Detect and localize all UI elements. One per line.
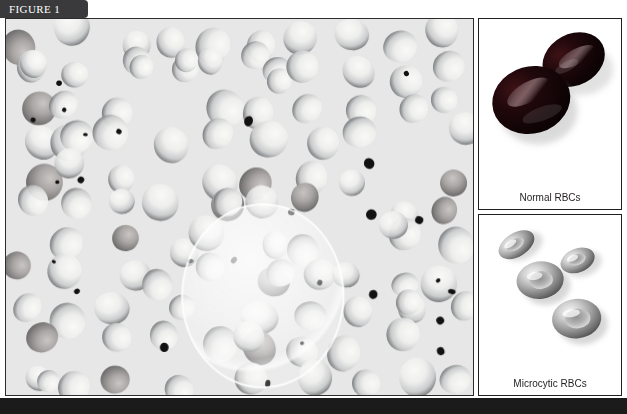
- blood-smear-panel: [5, 18, 474, 396]
- microcytic-rbc-caption: Microcytic RBCs: [479, 379, 621, 389]
- figure-number-tab: FIGURE 1: [0, 0, 88, 18]
- blood-smear-image: [6, 19, 473, 395]
- microcytic-rbc-illustration: [479, 215, 621, 369]
- normal-rbc-panel: Normal RBCs: [478, 18, 622, 210]
- figure-root: FIGURE 1: [0, 0, 627, 414]
- normal-rbc-caption: Normal RBCs: [479, 193, 621, 203]
- reference-panel-column: Normal RBCs: [478, 18, 622, 396]
- microcytic-rbc-panel: Microcytic RBCs: [478, 214, 622, 396]
- bottom-bar: [0, 398, 627, 414]
- normal-rbc-illustration: [479, 19, 621, 183]
- figure-tab-label: FIGURE 1: [9, 4, 60, 15]
